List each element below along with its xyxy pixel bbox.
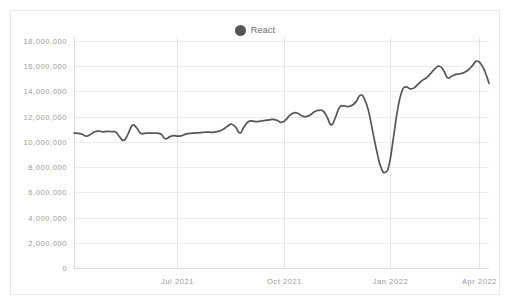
x-axis-tick-label: Apr 2022 <box>462 277 497 286</box>
x-axis-tick-label: Oct 2021 <box>267 277 302 286</box>
chart-card: React 02,000,0004,000,0006,000,0008,000,… <box>10 10 500 295</box>
y-axis-tick-label: 18,000,000 <box>23 37 67 46</box>
series-line-react[interactable] <box>74 61 489 173</box>
y-axis-tick-label: 14,000,000 <box>23 87 67 96</box>
x-axis-tick-label: Jan 2022 <box>373 277 409 286</box>
y-axis-tick-label: 6,000,000 <box>28 188 67 197</box>
x-axis-tick-label: Jul 2021 <box>161 277 194 286</box>
y-axis-tick-label: 4,000,000 <box>28 214 67 223</box>
y-axis-tick-label: 8,000,000 <box>28 163 67 172</box>
y-axis-tick-label: 16,000,000 <box>23 62 67 71</box>
y-axis-tick-label: 10,000,000 <box>23 138 67 147</box>
y-axis-tick-label: 0 <box>62 264 67 273</box>
line-chart-plot[interactable]: 02,000,0004,000,0006,000,0008,000,00010,… <box>11 11 501 296</box>
y-axis-tick-label: 2,000,000 <box>28 239 67 248</box>
y-axis-tick-label: 12,000,000 <box>23 113 67 122</box>
